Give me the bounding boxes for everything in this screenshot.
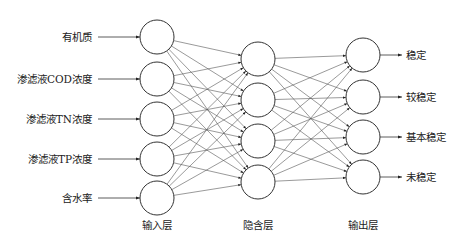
input-neuron bbox=[140, 20, 174, 54]
connection-edge bbox=[174, 103, 242, 116]
input-neuron bbox=[140, 62, 174, 96]
input-label: 含水率 bbox=[62, 192, 92, 204]
input-neuron bbox=[140, 102, 174, 136]
neurons bbox=[140, 20, 380, 215]
connection-edge bbox=[172, 109, 244, 151]
output-neuron bbox=[346, 80, 380, 114]
connection-edge bbox=[274, 147, 347, 172]
output-label: 未稳定 bbox=[406, 171, 437, 183]
output-neuron bbox=[346, 160, 380, 194]
connection-edge bbox=[172, 149, 243, 189]
connection-edge bbox=[274, 62, 348, 94]
output-layer-label: 输出层 bbox=[348, 219, 378, 231]
labels: 有机质渗滤液COD浓度渗滤液TN浓度渗滤液TP浓度含水率稳定较稳定基本稳定未稳定… bbox=[17, 31, 447, 231]
connection-edge bbox=[169, 91, 246, 170]
output-label: 较稳定 bbox=[406, 91, 437, 103]
input-neuron bbox=[140, 142, 174, 176]
connection-edge bbox=[171, 128, 243, 173]
connection-edge bbox=[269, 68, 352, 169]
hidden-neuron bbox=[241, 42, 275, 76]
input-neuron bbox=[140, 181, 174, 215]
output-neuron bbox=[346, 38, 380, 72]
neural-network-diagram: 有机质渗滤液COD浓度渗滤液TN浓度渗滤液TP浓度含水率稳定较稳定基本稳定未稳定… bbox=[0, 0, 468, 246]
input-label: 有机质 bbox=[62, 31, 92, 43]
input-label: 渗滤液TP浓度 bbox=[28, 153, 93, 165]
connection-edge bbox=[271, 108, 350, 172]
hidden-neuron bbox=[241, 83, 275, 117]
connection-edge bbox=[275, 56, 346, 59]
hidden-layer-label: 隐含层 bbox=[243, 219, 273, 231]
connection-edge bbox=[169, 112, 246, 186]
network-canvas: 有机质渗滤液COD浓度渗滤液TN浓度渗滤液TP浓度含水率稳定较稳定基本稳定未稳定… bbox=[0, 0, 468, 246]
output-label: 基本稳定 bbox=[406, 131, 447, 143]
connection-edge bbox=[174, 185, 241, 196]
output-label: 稳定 bbox=[406, 49, 427, 61]
hidden-neuron bbox=[241, 165, 275, 199]
connection-edge bbox=[269, 72, 351, 165]
input-label: 渗滤液COD浓度 bbox=[17, 73, 93, 85]
connection-edge bbox=[274, 144, 348, 176]
input-label: 渗滤液TN浓度 bbox=[26, 113, 93, 125]
connection-edge bbox=[174, 41, 242, 56]
input-layer-label: 输入层 bbox=[142, 219, 172, 231]
connection-edge bbox=[275, 178, 346, 181]
output-neuron bbox=[346, 120, 380, 154]
hidden-neuron bbox=[241, 124, 275, 158]
connection-edge bbox=[174, 82, 242, 96]
connection-edge bbox=[275, 138, 346, 141]
